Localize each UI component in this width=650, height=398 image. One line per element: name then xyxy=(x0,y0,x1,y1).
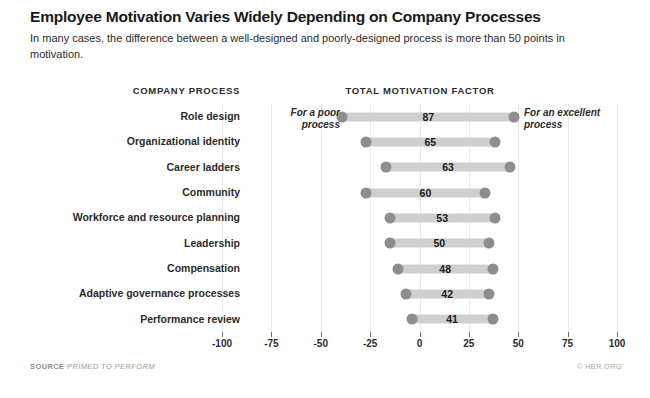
chart-rows: Role design87Organizational identity65Ca… xyxy=(0,104,650,332)
range-cap-low xyxy=(384,238,395,249)
axis-tick xyxy=(568,332,569,337)
range-cap-high xyxy=(487,314,498,325)
axis-tick xyxy=(469,332,470,337)
chart-row: Organizational identity65 xyxy=(0,129,650,154)
bar-value-label: 65 xyxy=(425,136,437,148)
row-label: Compensation xyxy=(0,256,240,281)
bar-value-label: 42 xyxy=(441,288,453,300)
chart-row: Adaptive governance processes42 xyxy=(0,281,650,306)
row-label: Adaptive governance processes xyxy=(0,281,240,306)
chart-row: Career ladders63 xyxy=(0,155,650,180)
range-cap-high xyxy=(509,111,520,122)
axis-tick xyxy=(518,332,519,337)
range-cap-high xyxy=(505,162,516,173)
axis-tick-label: -100 xyxy=(212,338,232,349)
source-label: SOURCE xyxy=(30,362,65,371)
axis-tick-label: 100 xyxy=(609,338,626,349)
axis-tick-label: 50 xyxy=(513,338,524,349)
row-label: Role design xyxy=(0,104,240,129)
row-bar-area: 60 xyxy=(222,180,617,205)
axis-tick xyxy=(222,332,223,337)
row-bar-area: 65 xyxy=(222,129,617,154)
bar-value-label: 53 xyxy=(436,212,448,224)
chart-row: Leadership50 xyxy=(0,231,650,256)
axis-tick-label: -75 xyxy=(264,338,278,349)
range-cap-high xyxy=(489,136,500,147)
source-value: PRIMED TO PERFORM xyxy=(67,362,155,371)
bar-value-label: 48 xyxy=(439,263,451,275)
credit-note: © HBR.ORG xyxy=(577,362,622,371)
row-bar-area: 50 xyxy=(222,231,617,256)
range-cap-low xyxy=(400,288,411,299)
chart-row: Compensation48 xyxy=(0,256,650,281)
column-header-company-process: COMPANY PROCESS xyxy=(110,85,240,96)
axis-tick-label: 75 xyxy=(562,338,573,349)
chart-title: Employee Motivation Varies Widely Depend… xyxy=(30,8,630,26)
row-bar-area: 42 xyxy=(222,281,617,306)
annotation-excellent-process: For an excellent process xyxy=(524,107,634,131)
source-note: SOURCE PRIMED TO PERFORM xyxy=(30,362,155,371)
axis-tick xyxy=(370,332,371,337)
chart-container: Employee Motivation Varies Widely Depend… xyxy=(0,0,650,398)
bar-value-label: 63 xyxy=(442,161,454,173)
bar-value-label: 50 xyxy=(433,237,445,249)
range-cap-high xyxy=(489,212,500,223)
range-cap-low xyxy=(361,187,372,198)
range-cap-high xyxy=(483,238,494,249)
axis-tick-label: 25 xyxy=(463,338,474,349)
range-cap-low xyxy=(361,136,372,147)
row-bar-area: 53 xyxy=(222,205,617,230)
row-bar-area: 41 xyxy=(222,307,617,332)
axis-tick xyxy=(420,332,421,337)
chart-row: Workforce and resource planning53 xyxy=(0,205,650,230)
row-label: Organizational identity xyxy=(0,129,240,154)
axis-tick xyxy=(321,332,322,337)
row-label: Performance review xyxy=(0,307,240,332)
annotation-poor-process: For a poor process xyxy=(276,107,340,131)
axis-tick-label: -50 xyxy=(314,338,328,349)
range-cap-high xyxy=(487,263,498,274)
row-label: Career ladders xyxy=(0,155,240,180)
range-cap-low xyxy=(392,263,403,274)
chart-row: Community60 xyxy=(0,180,650,205)
x-axis: -100-75-50-250255075100 xyxy=(222,332,617,354)
chart-row: Performance review41 xyxy=(0,307,650,332)
bar-value-label: 87 xyxy=(423,111,435,123)
row-label: Leadership xyxy=(0,231,240,256)
row-bar-area: 48 xyxy=(222,256,617,281)
row-label: Workforce and resource planning xyxy=(0,205,240,230)
axis-tick-label: 0 xyxy=(417,338,423,349)
bar-value-label: 60 xyxy=(420,187,432,199)
range-cap-low xyxy=(406,314,417,325)
range-cap-high xyxy=(479,187,490,198)
row-bar-area: 63 xyxy=(222,155,617,180)
axis-tick xyxy=(271,332,272,337)
column-header-total-motivation-factor: TOTAL MOTIVATION FACTOR xyxy=(300,85,540,96)
range-cap-low xyxy=(380,162,391,173)
bar-value-label: 41 xyxy=(446,313,458,325)
chart-subtitle: In many cases, the difference between a … xyxy=(30,31,610,63)
range-cap-low xyxy=(384,212,395,223)
range-cap-high xyxy=(483,288,494,299)
axis-tick-label: -25 xyxy=(363,338,377,349)
axis-tick xyxy=(617,332,618,337)
row-label: Community xyxy=(0,180,240,205)
